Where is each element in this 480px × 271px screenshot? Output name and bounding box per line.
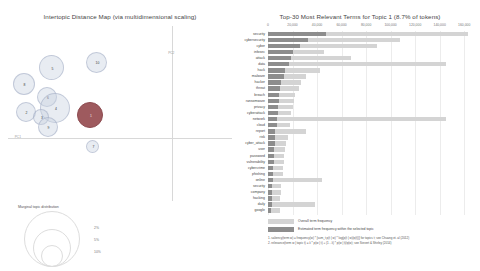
term-label[interactable]: ransomware [240,99,265,103]
barchart-row[interactable]: cyberattack [240,110,480,116]
bar-topic-frequency [268,129,275,133]
term-label[interactable]: security [240,184,265,188]
barchart-row[interactable]: report [240,129,480,135]
term-label[interactable]: hack [240,68,265,72]
barchart-row[interactable]: infosec [240,49,480,55]
barchart-row[interactable]: threat [240,86,480,92]
term-label[interactable]: cybersecurity [240,38,265,42]
bar-topic-frequency [268,105,278,109]
barchart-row[interactable]: password [240,153,480,159]
term-label[interactable]: online [240,178,265,182]
barchart-row[interactable]: hack [240,68,480,74]
term-label[interactable]: cybercrime [240,166,265,170]
bar-overall-frequency [268,123,290,127]
barchart-row[interactable]: ransomware [240,98,480,104]
term-label[interactable]: user [240,147,265,151]
barchart-row[interactable]: company [240,190,480,196]
barchart-row[interactable]: malware [240,74,480,80]
barchart-row[interactable]: google [240,208,480,214]
bar-overall-frequency [268,129,306,133]
barchart-row[interactable]: hacking [240,196,480,202]
barchart-row[interactable]: user [240,147,480,153]
barchart-legend: Overall term frequency Estimated term fr… [268,219,480,234]
barchart-row[interactable]: security [240,184,480,190]
bar-overall-frequency [268,93,295,97]
term-label[interactable]: cyber_attack [240,141,265,145]
bar-overall-frequency [268,141,286,145]
barchart-row[interactable]: cyber [240,43,480,49]
barchart-row[interactable]: vulnerability [240,159,480,165]
x-tick-label: 80,000 [361,23,371,27]
term-label[interactable]: daily [240,202,265,206]
legend-label-estimated: Estimated term frequency within the sele… [298,227,374,231]
bar-overall-frequency [268,160,284,164]
term-label[interactable]: cyberattack [240,111,265,115]
barchart-row[interactable]: cybercrime [240,165,480,171]
term-label[interactable]: security [240,32,265,36]
barchart-x-axis: 020,00040,00060,00080,000100,000120,0001… [268,23,474,31]
barchart-row[interactable]: privacy [240,104,480,110]
topic-bubble-9[interactable]: 9 [38,117,58,137]
topic-bubble-5[interactable]: 5 [39,55,64,80]
bar-overall-frequency [268,135,288,139]
bar-topic-frequency [268,154,274,158]
barchart-row[interactable]: cybersecurity [240,37,480,43]
term-label[interactable]: privacy [240,105,265,109]
term-label[interactable]: malware [240,74,265,78]
term-label[interactable]: password [240,154,265,158]
bar-topic-frequency [268,160,274,164]
barchart-row[interactable]: security [240,31,480,37]
barchart-row[interactable]: risk [240,135,480,141]
term-label[interactable]: hacking [240,196,265,200]
bar-overall-frequency [268,196,280,200]
bar-topic-frequency [268,178,273,182]
barchart-row[interactable]: network [240,116,480,122]
bar-overall-frequency [268,38,400,42]
topic-bubble-10[interactable]: 10 [86,52,107,73]
term-label[interactable]: cyber [240,44,265,48]
bar-overall-frequency [268,190,281,194]
x-tick-label: 0 [267,23,269,27]
term-label[interactable]: phishing [240,172,265,176]
term-label[interactable]: report [240,129,265,133]
bar-overall-frequency [268,32,468,36]
bar-overall-frequency [268,178,322,182]
term-label[interactable]: network [240,117,265,121]
topic-bubble-label: 1 [90,114,92,118]
bar-overall-frequency [268,50,324,54]
x-tick-label: 120,000 [409,23,421,27]
barchart-row[interactable]: attack [240,55,480,61]
topic-bubble-label: 9 [48,126,50,130]
size-legend-value-2: 2% [94,226,99,230]
barchart-footnotes: 1. saliency(term w) = frequency(w) * [su… [268,236,480,246]
barchart-row[interactable]: breach [240,92,480,98]
term-label[interactable]: attack [240,56,265,60]
term-label[interactable]: data [240,62,265,66]
topic-bubble-7[interactable]: 7 [86,140,99,153]
term-label[interactable]: breach [240,93,265,97]
barchart-row[interactable]: phishing [240,171,480,177]
term-label[interactable]: vulnerability [240,160,265,164]
term-label[interactable]: company [240,190,265,194]
topic-bubble-1[interactable]: 1 [77,102,103,128]
top-terms-panel: Top-30 Most Relevant Terms for Topic 1 (… [240,0,480,271]
topic-bubble-8[interactable]: 8 [13,73,35,95]
term-label[interactable]: cloud [240,123,265,127]
barchart-row[interactable]: cyber_attack [240,141,480,147]
barchart-row[interactable]: hacker [240,80,480,86]
x-tick-label: 20,000 [287,23,297,27]
barchart-row[interactable]: online [240,177,480,183]
term-label[interactable]: hacker [240,80,265,84]
term-label[interactable]: infosec [240,50,265,54]
term-label[interactable]: risk [240,135,265,139]
barchart-row[interactable]: data [240,62,480,68]
mds-title: Intertopic Distance Map (via multidimens… [0,13,240,20]
mds-plot-area[interactable]: PC2 PC1 58264391071 [8,26,232,201]
barchart-row[interactable]: cloud [240,123,480,129]
term-label[interactable]: threat [240,86,265,90]
bar-overall-frequency [268,99,294,103]
bar-overall-frequency [268,166,283,170]
bar-topic-frequency [268,86,280,90]
term-label[interactable]: google [240,208,265,212]
barchart-row[interactable]: daily [240,202,480,208]
